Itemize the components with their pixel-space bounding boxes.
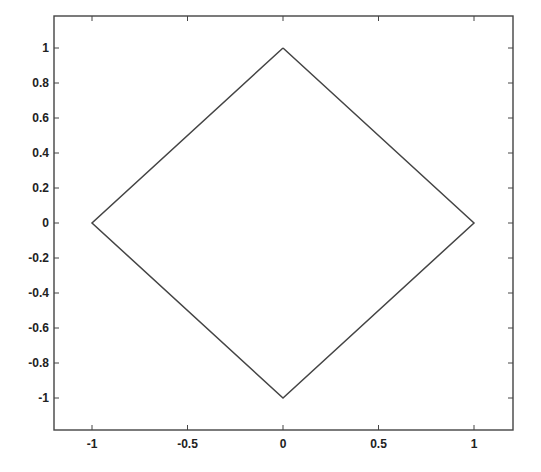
x-tick-label: -1	[87, 437, 98, 451]
y-tick-label: 0	[42, 216, 49, 230]
y-tick-label: 0.6	[32, 111, 49, 125]
ticks	[54, 16, 513, 430]
y-tick-label: 0.4	[32, 146, 49, 160]
x-tick-label: 0.5	[370, 437, 387, 451]
y-tick-label: 0.8	[32, 76, 49, 90]
chart: -1-0.500.5110.80.60.40.20-0.2-0.4-0.6-0.…	[0, 0, 541, 472]
x-tick-label: -0.5	[177, 437, 198, 451]
y-tick-label: -0.2	[28, 251, 49, 265]
y-tick-label: -0.8	[28, 356, 49, 370]
x-tick-label: 0	[280, 437, 287, 451]
x-tick-label: 1	[471, 437, 478, 451]
y-tick-label: -0.4	[28, 286, 49, 300]
axes-box	[54, 16, 513, 430]
y-tick-label: 0.2	[32, 181, 49, 195]
y-tick-label: 1	[42, 41, 49, 55]
series	[92, 48, 474, 398]
y-tick-label: -0.6	[28, 321, 49, 335]
series-line-diamond	[92, 48, 474, 398]
y-tick-label: -1	[38, 391, 49, 405]
tick-labels: -1-0.500.5110.80.60.40.20-0.2-0.4-0.6-0.…	[28, 41, 477, 451]
